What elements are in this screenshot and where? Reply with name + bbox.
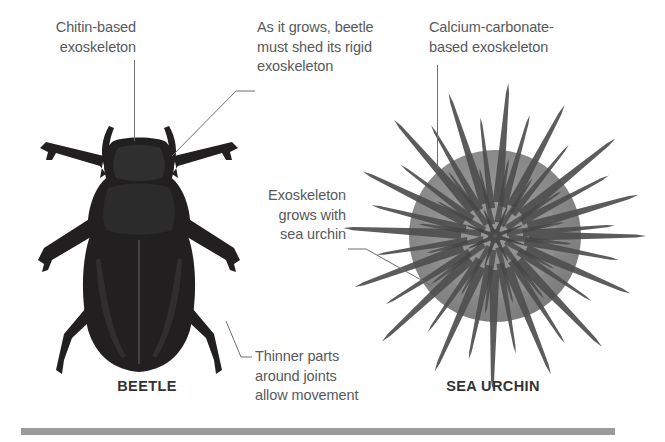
bottom-rule xyxy=(21,428,615,435)
annotation-chitin-based-exoskeleton: Chitin-based exoskeleton xyxy=(8,18,136,57)
annotation-must-shed-exoskeleton: As it grows, beetle must shed its rigid … xyxy=(257,18,417,77)
caption-beetle: BEETLE xyxy=(92,378,202,394)
annotation-thinner-parts-allow-movement: Thinner parts around joints allow moveme… xyxy=(255,347,425,406)
diagram-figure: Chitin-based exoskeleton As it grows, be… xyxy=(0,0,665,442)
sea-urchin-illustration xyxy=(366,108,624,370)
annotation-calcium-carbonate-exoskeleton: Calcium-carbonate- based exoskeleton xyxy=(429,18,604,57)
annotation-exoskeleton-grows-with-sea-urchin: Exoskeleton grows with sea urchin xyxy=(212,186,346,245)
caption-sea-urchin: SEA URCHIN xyxy=(432,378,554,394)
